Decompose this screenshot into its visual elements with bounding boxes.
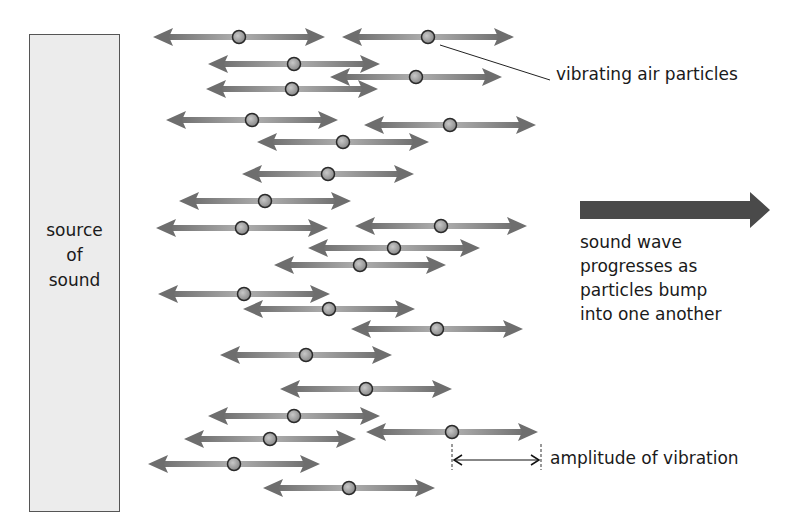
particle-vibration-arrow — [355, 217, 527, 235]
air-particle-icon — [300, 349, 313, 362]
air-particle-icon — [264, 433, 277, 446]
air-particle-icon — [410, 71, 423, 84]
particle-vibration-arrow — [280, 380, 452, 398]
particle-vibration-arrow — [179, 192, 351, 210]
particle-vibration-arrow — [242, 165, 414, 183]
sound-wave-direction-arrow-icon — [580, 192, 770, 228]
particle-vibration-arrow — [243, 300, 415, 318]
source-label-line: of — [29, 243, 120, 268]
particle-vibration-arrow — [158, 285, 330, 303]
air-particle-icon — [259, 195, 272, 208]
vibrating-particles-label: vibrating air particles — [556, 64, 738, 84]
air-particle-icon — [337, 136, 350, 149]
particle-vibration-arrow — [184, 430, 356, 448]
air-particle-icon — [288, 410, 301, 423]
wave-caption-line: progresses as — [580, 254, 780, 278]
wave-caption-line: sound wave — [580, 230, 780, 254]
source-label-line: sound — [29, 268, 120, 293]
air-particle-icon — [288, 58, 301, 71]
air-particle-icon — [233, 31, 246, 44]
particle-vibration-arrow — [206, 80, 378, 98]
particle-vibration-arrow — [166, 111, 338, 129]
particle-vibration-arrow — [274, 256, 446, 274]
air-particle-icon — [343, 482, 356, 495]
particle-vibration-arrow — [257, 133, 429, 151]
particle-vibration-arrow — [330, 68, 502, 86]
air-particle-icon — [354, 259, 367, 272]
air-particle-icon — [444, 119, 457, 132]
wave-caption-line: into one another — [580, 302, 780, 326]
sound-wave-caption: sound wave progresses as particles bump … — [580, 230, 780, 326]
air-particle-icon — [322, 168, 335, 181]
particle-vibration-arrow — [366, 423, 538, 441]
amplitude-marker — [452, 444, 541, 470]
amplitude-label: amplitude of vibration — [550, 448, 739, 468]
particle-vibration-arrow — [208, 407, 380, 425]
particle-vibration-arrow — [153, 28, 325, 46]
particle-vibration-arrow — [263, 479, 435, 497]
air-particle-icon — [236, 222, 249, 235]
air-particle-icon — [246, 114, 259, 127]
air-particle-icon — [286, 83, 299, 96]
particle-vibration-arrow — [208, 55, 380, 73]
particle-vibration-arrow — [364, 116, 536, 134]
wave-caption-line: particles bump — [580, 278, 780, 302]
air-particle-icon — [360, 383, 373, 396]
source-label-line: source — [29, 218, 120, 243]
particle-vibration-arrow — [220, 346, 392, 364]
air-particle-icon — [323, 303, 336, 316]
air-particle-icon — [238, 288, 251, 301]
particle-vibration-arrow — [351, 320, 523, 338]
air-particle-icon — [228, 458, 241, 471]
air-particle-icon — [446, 426, 459, 439]
particle-vibration-arrow — [342, 28, 514, 46]
air-particle-icon — [422, 31, 435, 44]
vibrating-particles-group — [148, 28, 538, 497]
air-particle-icon — [435, 220, 448, 233]
particle-vibration-arrow — [148, 455, 320, 473]
air-particle-icon — [388, 242, 401, 255]
particle-vibration-arrow — [308, 239, 480, 257]
sound-source-label: source of sound — [29, 218, 120, 293]
particle-vibration-arrow — [156, 219, 328, 237]
air-particle-icon — [431, 323, 444, 336]
